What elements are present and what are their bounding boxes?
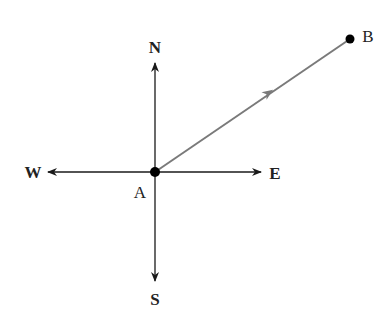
point-a (150, 167, 160, 177)
north-label: N (149, 38, 162, 57)
east-label: E (269, 164, 280, 183)
point-a-label: A (134, 183, 147, 202)
point-b-label: B (362, 27, 373, 46)
point-b (346, 35, 355, 44)
compass-diagram: N S W E A B (0, 0, 390, 325)
south-label: S (150, 290, 159, 309)
vector-ab (155, 39, 350, 172)
west-label: W (25, 163, 42, 182)
